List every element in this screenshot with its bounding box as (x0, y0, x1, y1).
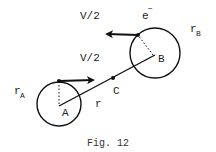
velocity-label-top: V/2 (80, 10, 100, 22)
diagram: V/2 V/2 e − r B r A A B C r Fig. 12 (0, 0, 216, 152)
velocity-label-mid: V/2 (80, 52, 100, 64)
radius-b-dotted (138, 35, 153, 55)
velocity-arrow-left (107, 34, 138, 35)
radius-a-sub: A (20, 91, 25, 100)
radius-b-sub: B (196, 29, 201, 38)
point-b-label: B (158, 53, 165, 65)
point-a-label: A (62, 107, 69, 119)
point-c-label: C (113, 85, 120, 97)
electron-charge-sup: − (148, 4, 153, 13)
point-c-dot (111, 76, 115, 80)
figure-caption: Fig. 12 (87, 138, 129, 149)
separation-label: r (95, 98, 102, 110)
velocity-arrow-right (59, 80, 93, 81)
